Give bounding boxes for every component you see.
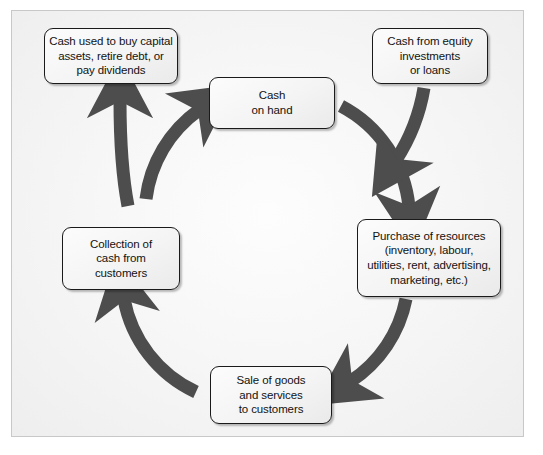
sale-line-3: to customers	[236, 402, 305, 417]
collection-line-2: cash from	[90, 251, 152, 266]
purchase-line-4: marketing, etc.)	[367, 273, 491, 288]
cash-from-equity-line-2: investments	[387, 49, 472, 64]
cash-from-equity-line-3: or loans	[387, 63, 472, 78]
purchase-line-2: (inventory, labour,	[367, 243, 491, 258]
purchase-line-3: utilities, rent, advertising,	[367, 258, 491, 273]
cash-on-hand-box: Cash on hand	[209, 77, 335, 129]
collection-line-1: Collection of	[90, 237, 152, 252]
cash-used-line-2: assets, retire debt, or	[49, 49, 173, 64]
cash-from-equity-box: Cash from equity investments or loans	[372, 28, 488, 84]
arrow-collect-to-capital	[120, 100, 128, 206]
sale-line-1: Sale of goods	[236, 373, 305, 388]
cash-used-line-1: Cash used to buy capital	[49, 34, 173, 49]
cash-on-hand-line-2: on hand	[252, 103, 293, 118]
sale-of-goods-box: Sale of goods and services to customers	[210, 366, 332, 424]
purchase-of-resources-box: Purchase of resources (inventory, labour…	[357, 219, 501, 297]
cash-from-equity-line-1: Cash from equity	[387, 34, 472, 49]
cash-used-line-3: pay dividends	[49, 63, 173, 78]
arrow-collect-to-cash	[146, 110, 199, 199]
cash-used-box: Cash used to buy capital assets, retire …	[44, 28, 178, 84]
cash-on-hand-line-1: Cash	[252, 88, 293, 103]
arrow-equity-into-cycle	[396, 88, 424, 160]
sale-line-2: and services	[236, 388, 305, 403]
cash-flow-cycle-diagram: Cash used to buy capital assets, retire …	[0, 0, 543, 455]
arrow-sale-to-collect	[124, 299, 196, 392]
collection-line-3: customers	[90, 266, 152, 281]
purchase-line-1: Purchase of resources	[367, 229, 491, 244]
collection-of-cash-box: Collection of cash from customers	[62, 227, 180, 290]
arrow-purchase-to-sale	[351, 299, 406, 381]
